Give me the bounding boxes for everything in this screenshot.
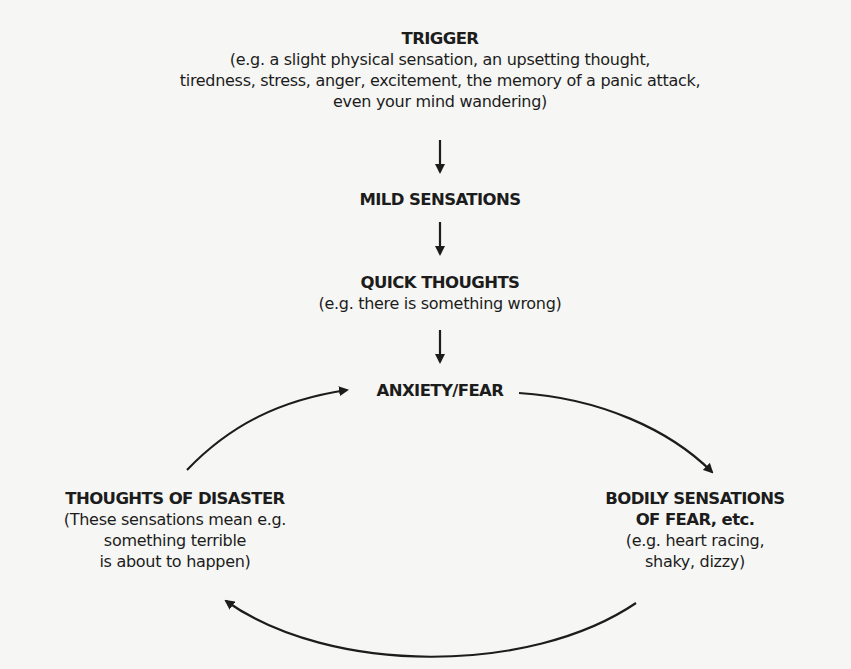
thoughts-of-disaster-title: THOUGHTS OF DISASTER — [40, 488, 310, 509]
node-bodily-sensations: BODILY SENSATIONS OF FEAR, etc. (e.g. he… — [570, 488, 820, 572]
node-trigger: TRIGGER (e.g. a slight physical sensatio… — [140, 28, 740, 112]
thoughts-of-disaster-desc-line-3: is about to happen) — [40, 551, 310, 572]
arrow-bodily-to-disaster — [226, 601, 636, 657]
bodily-sensations-desc-line-2: shaky, dizzy) — [570, 551, 820, 572]
trigger-title: TRIGGER — [140, 28, 740, 49]
node-quick-thoughts: QUICK THOUGHTS (e.g. there is something … — [240, 272, 640, 314]
bodily-sensations-desc-line-1: (e.g. heart racing, — [570, 530, 820, 551]
trigger-desc-line-3: even your mind wandering) — [140, 91, 740, 112]
trigger-desc-line-1: (e.g. a slight physical sensation, an up… — [140, 49, 740, 70]
thoughts-of-disaster-desc-line-2: something terrible — [40, 530, 310, 551]
bodily-sensations-title-line-1: BODILY SENSATIONS — [570, 488, 820, 509]
thoughts-of-disaster-desc-line-1: (These sensations mean e.g. — [40, 509, 310, 530]
quick-thoughts-title: QUICK THOUGHTS — [240, 272, 640, 293]
trigger-desc-line-2: tiredness, stress, anger, excitement, th… — [140, 70, 740, 91]
node-thoughts-of-disaster: THOUGHTS OF DISASTER (These sensations m… — [40, 488, 310, 572]
quick-thoughts-desc: (e.g. there is something wrong) — [240, 293, 640, 314]
mild-sensations-title: MILD SENSATIONS — [240, 189, 640, 210]
arrow-disaster-to-anxiety — [187, 390, 347, 470]
anxiety-fear-title: ANXIETY/FEAR — [330, 380, 550, 401]
node-mild-sensations: MILD SENSATIONS — [240, 189, 640, 210]
node-anxiety-fear: ANXIETY/FEAR — [330, 380, 550, 401]
arrow-anxiety-to-bodily — [519, 393, 712, 472]
bodily-sensations-title-line-2: OF FEAR, etc. — [570, 509, 820, 530]
